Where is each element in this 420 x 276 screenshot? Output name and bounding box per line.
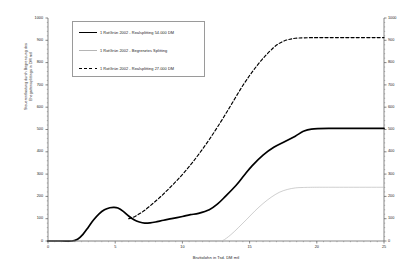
y-axis-tick-label-right: 0 [388, 239, 404, 243]
legend-item-realsplitting-27000: 1 RotGrün 2002 - Realsplitting 27.000 DM [79, 63, 174, 73]
y-axis-tick-label-right: 300 [388, 172, 404, 176]
legend-key-solid-bold-icon [79, 29, 97, 35]
y-axis-tick-label-left: 0 [27, 239, 43, 243]
chart-container: Steuerentlastung durch Begrenzung des Eh… [0, 0, 420, 276]
y-axis-title: Steuerentlastung durch Begrenzung des Eh… [24, 12, 33, 142]
y-axis-tick-label-right: 100 [388, 216, 404, 220]
x-axis-title: Bruttolohn in Tsd. DM mtl [48, 255, 384, 260]
x-axis-tick-label: 25 [376, 245, 392, 249]
chart-plot-area [0, 0, 420, 276]
legend-label: 1 RotGrün 2002 - Realsplitting 27.000 DM [100, 66, 174, 71]
x-axis-tick-label: 15 [242, 245, 258, 249]
y-axis-tick-label-right: 600 [388, 105, 404, 109]
x-axis-tick-label: 20 [309, 245, 325, 249]
legend-label: 1 RotGrün 2002 - Begrenztes Splitting [100, 48, 167, 53]
y-axis-tick-label-right: 400 [388, 149, 404, 153]
x-axis-tick-label: 10 [174, 245, 190, 249]
chart-legend: 1 RotGrün 2002 - Realsplitting 54.000 DM… [72, 21, 205, 77]
y-axis-tick-label-left: 100 [27, 216, 43, 220]
x-axis-tick-label: 0 [40, 245, 56, 249]
y-axis-tick-label-right: 500 [388, 127, 404, 131]
y-axis-tick-label-left: 500 [27, 127, 43, 131]
legend-item-realsplitting-54000: 1 RotGrün 2002 - Realsplitting 54.000 DM [79, 27, 174, 37]
legend-key-thin-line-icon [79, 47, 97, 53]
y-axis-tick-label-left: 400 [27, 149, 43, 153]
y-axis-tick-label-left: 600 [27, 105, 43, 109]
y-axis-tick-label-right: 800 [388, 60, 404, 64]
series-line-0 [48, 128, 384, 241]
x-axis-tick-label: 5 [107, 245, 123, 249]
y-axis-tick-label-right: 1000 [388, 16, 404, 20]
y-axis-tick-label-left: 300 [27, 172, 43, 176]
y-axis-tick-label-right: 900 [388, 38, 404, 42]
y-axis-tick-label-left: 700 [27, 83, 43, 87]
y-axis-tick-label-right: 200 [388, 194, 404, 198]
y-axis-tick-label-left: 900 [27, 38, 43, 42]
y-axis-tick-label-left: 1000 [27, 16, 43, 20]
legend-label: 1 RotGrün 2002 - Realsplitting 54.000 DM [100, 30, 174, 35]
legend-item-begrenztes-splitting: 1 RotGrün 2002 - Begrenztes Splitting [79, 45, 167, 55]
y-axis-tick-label-right: 700 [388, 83, 404, 87]
legend-key-dashed-line-icon [79, 65, 97, 71]
y-axis-tick-label-left: 800 [27, 60, 43, 64]
y-axis-tick-label-left: 200 [27, 194, 43, 198]
